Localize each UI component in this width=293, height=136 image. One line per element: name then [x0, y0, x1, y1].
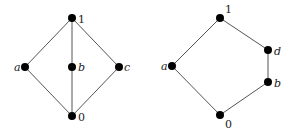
node-a	[21, 63, 29, 71]
node-label-1: 1	[225, 3, 232, 16]
node-label-b: b	[78, 61, 85, 74]
diamond-lattice-diagram: 1abc0	[14, 13, 130, 124]
node-label-c: c	[124, 61, 130, 74]
node-1	[216, 14, 224, 22]
node-label-a: a	[14, 61, 21, 74]
node-label-1: 1	[78, 13, 85, 26]
node-0	[216, 111, 224, 119]
node-label-0: 0	[78, 111, 85, 124]
node-a	[168, 62, 176, 70]
edge-c-0	[72, 67, 119, 116]
edge-a-0	[172, 66, 220, 115]
node-0	[68, 112, 76, 120]
node-label-b: b	[274, 77, 281, 90]
lattice-diagrams: 1abc0 1adb0	[0, 0, 293, 136]
node-b	[68, 63, 76, 71]
edge-b-0	[220, 82, 268, 115]
pentagon-lattice-diagram: 1adb0	[161, 3, 281, 131]
edge-1-d	[220, 18, 268, 50]
node-label-0: 0	[225, 118, 232, 131]
node-d	[264, 46, 272, 54]
node-b	[264, 78, 272, 86]
edge-a-0	[25, 67, 72, 116]
node-label-a: a	[161, 60, 168, 73]
node-c	[115, 63, 123, 71]
node-1	[68, 14, 76, 22]
edge-1-a	[25, 18, 72, 67]
node-label-d: d	[274, 45, 281, 58]
edge-1-a	[172, 18, 220, 66]
